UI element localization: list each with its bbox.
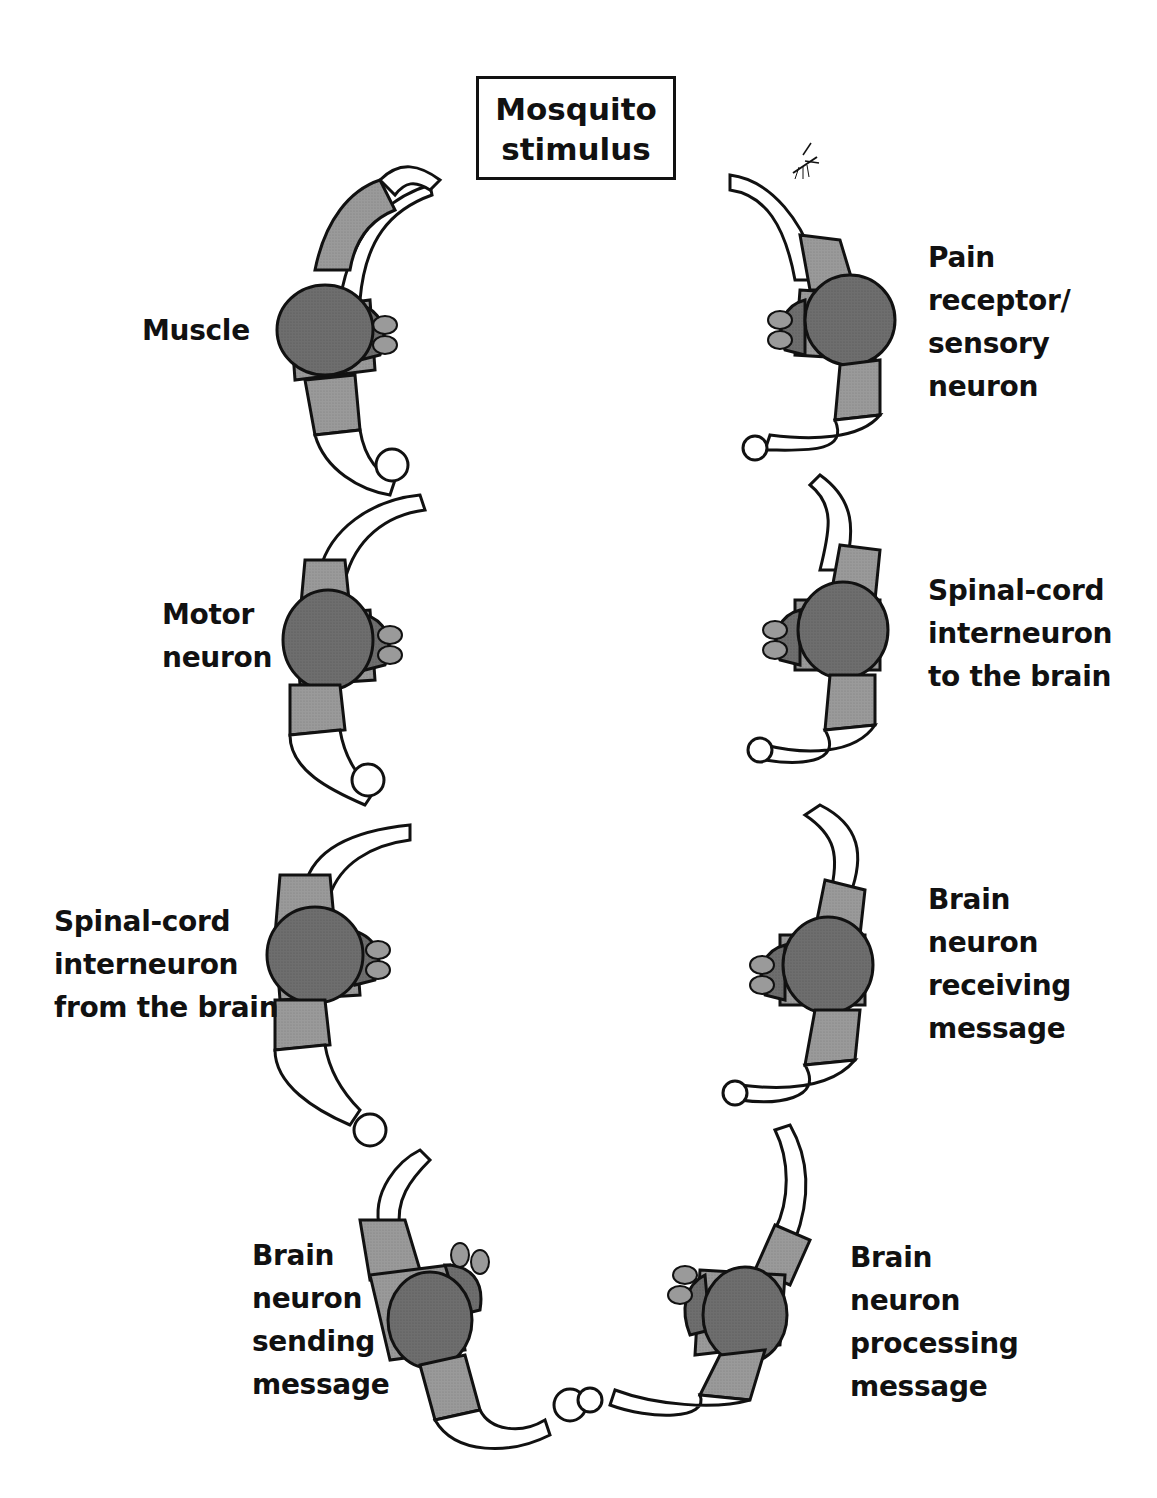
label-line: Pain [928,236,1070,279]
label-brain-neuron-receiving: Brain neuron receiving message [928,878,1071,1050]
label-spinal-interneuron-to-brain: Spinal-cord interneuron to the brain [928,569,1112,698]
label-line: Spinal-cord [928,569,1112,612]
label-line: neuron [162,636,272,679]
figure-pain-receptor [730,175,895,460]
label-line: neuron [850,1279,1019,1322]
label-line: Spinal-cord [54,900,278,943]
label-line: interneuron [928,612,1112,655]
label-line: from the brain [54,986,278,1029]
label-motor-neuron: Motor neuron [162,593,272,679]
label-line: neuron [928,921,1071,964]
label-line: message [850,1365,1019,1408]
figure-motor-neuron [283,495,425,805]
label-line: Brain [252,1234,389,1277]
label-brain-neuron-processing: Brain neuron processing message [850,1236,1019,1408]
label-line: neuron [928,365,1070,408]
label-spinal-interneuron-from-brain: Spinal-cord interneuron from the brain [54,900,278,1029]
mosquito-icon [793,143,819,179]
label-line: Motor [162,593,272,636]
label-line: Brain [850,1236,1019,1279]
figure-brain-neuron-processing [578,1125,810,1415]
label-line: interneuron [54,943,278,986]
label-line: receiving [928,964,1071,1007]
figure-spinal-interneuron-from-brain [267,825,410,1146]
label-brain-neuron-sending: Brain neuron sending message [252,1234,389,1406]
reflex-chain-diagram: Mosquito stimulus [0,0,1157,1498]
label-muscle: Muscle [142,309,250,352]
label-line: sensory [928,322,1070,365]
figure-brain-neuron-receiving [723,805,873,1105]
label-line: to the brain [928,655,1112,698]
label-line: receptor/ [928,279,1070,322]
label-line: message [928,1007,1071,1050]
figure-muscle [277,167,440,495]
label-line: message [252,1363,389,1406]
label-line: Brain [928,878,1071,921]
label-line: sending [252,1320,389,1363]
label-line: processing [850,1322,1019,1365]
label-line: Muscle [142,309,250,352]
figure-brain-neuron-sending [360,1150,586,1449]
label-pain-receptor: Pain receptor/ sensory neuron [928,236,1070,408]
figure-spinal-interneuron-to-brain [748,475,888,762]
label-line: neuron [252,1277,389,1320]
